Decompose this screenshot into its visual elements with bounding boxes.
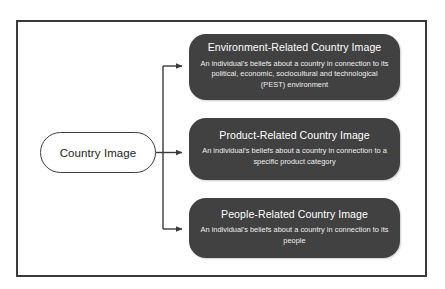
node-country-image[interactable]: Country Image [40,132,156,173]
node-people-related-description: An individual's beliefs about a country … [200,225,390,246]
node-environment-related-description: An individual's beliefs about a country … [200,59,390,91]
node-country-image-label: Country Image [60,147,137,159]
node-product-related-description: An individual's beliefs about a country … [200,146,390,167]
node-people-related-title: People-Related Country Image [221,208,368,221]
node-people-related-country-image[interactable]: People-Related Country Image An individu… [189,198,400,258]
node-environment-related-title: Environment-Related Country Image [208,41,382,54]
node-product-related-title: Product-Related Country Image [219,129,369,142]
node-product-related-country-image[interactable]: Product-Related Country Image An individ… [189,118,400,180]
node-environment-related-country-image[interactable]: Environment-Related Country Image An ind… [189,34,400,100]
diagram-canvas: Country Image Environment-Related Countr… [0,0,445,289]
